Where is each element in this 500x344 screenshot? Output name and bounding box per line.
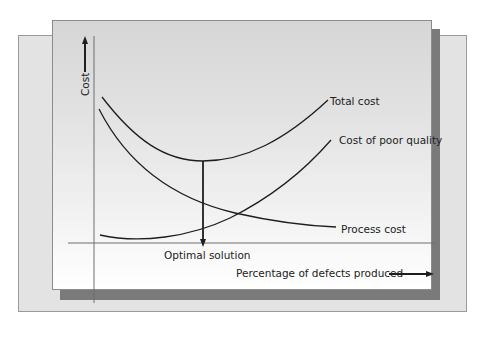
cost-quality-diagram: Cost Total cost Cost of poor quality Pro… (0, 0, 500, 344)
y-axis-label: Cost (79, 73, 91, 96)
process-cost-label: Process cost (341, 223, 406, 235)
x-axis-label: Percentage of defects produced (236, 267, 403, 279)
total-cost-curve (102, 97, 328, 161)
poor-quality-label: Cost of poor quality (339, 134, 442, 146)
optimal-solution-label: Optimal solution (164, 249, 250, 261)
process-cost-curve (99, 109, 336, 227)
total-cost-label: Total cost (329, 95, 380, 107)
